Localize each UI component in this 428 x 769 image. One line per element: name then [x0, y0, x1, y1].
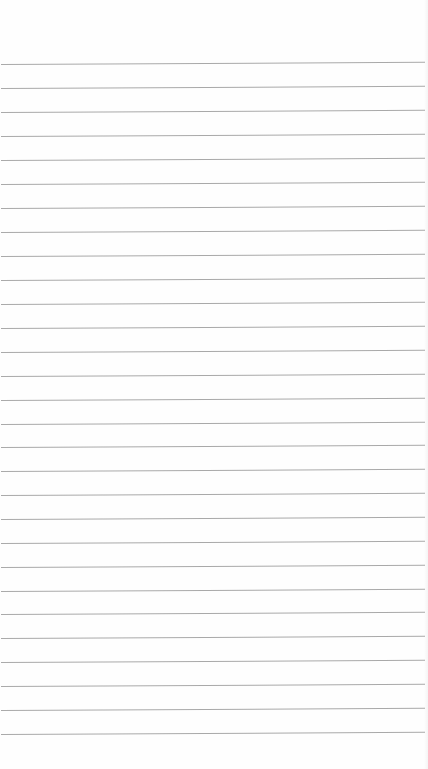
ruled-line	[1, 708, 425, 711]
ruled-line	[1, 62, 425, 65]
ruled-line	[1, 350, 425, 353]
ruled-line	[1, 302, 425, 305]
ruled-line	[1, 230, 425, 233]
ruled-line	[1, 398, 425, 401]
ruled-line	[1, 278, 425, 281]
ruled-line	[1, 374, 425, 377]
ruled-line	[1, 110, 425, 113]
ruled-line	[1, 636, 425, 639]
ruled-line	[1, 86, 425, 89]
ruled-line	[1, 469, 425, 472]
ruled-line	[1, 565, 425, 568]
ruled-line	[1, 134, 425, 137]
ruled-line	[1, 254, 425, 257]
page-edge-shadow	[424, 0, 428, 769]
ruled-line	[1, 732, 425, 735]
ruled-line	[1, 660, 425, 663]
ruled-line	[1, 493, 425, 496]
ruled-lines	[0, 0, 428, 769]
ruled-line	[1, 206, 425, 209]
ruled-line	[1, 422, 425, 425]
ruled-line	[1, 541, 425, 544]
ruled-line	[1, 158, 425, 161]
notebook-page	[0, 0, 428, 769]
ruled-line	[1, 684, 425, 687]
ruled-line	[1, 517, 425, 520]
ruled-line	[1, 589, 425, 592]
ruled-line	[1, 612, 425, 615]
ruled-line	[1, 326, 425, 329]
ruled-line	[1, 182, 425, 185]
ruled-line	[1, 445, 425, 448]
